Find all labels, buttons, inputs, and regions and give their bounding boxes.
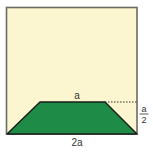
top-base-label: a (74, 90, 80, 101)
height-label-denominator: 2 (141, 115, 146, 125)
height-label-numerator: a (141, 104, 146, 114)
diagram-canvas: a a 2 2a (0, 0, 153, 155)
bottom-base-label: 2a (71, 137, 83, 148)
